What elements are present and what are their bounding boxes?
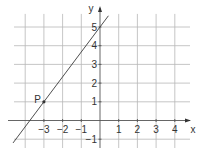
y-axis-label: y: [89, 3, 94, 14]
labels-layer: −3−2−11234−112345xyP: [34, 3, 195, 145]
x-tick-label: 2: [135, 124, 141, 135]
x-tick-label: 4: [172, 124, 178, 135]
point-marker: [42, 100, 45, 103]
point-label: P: [34, 94, 41, 105]
y-axis-arrow-icon: [98, 6, 102, 12]
x-tick-label: −3: [38, 124, 50, 135]
x-tick-label: 1: [116, 124, 122, 135]
y-tick-label: 1: [91, 96, 97, 107]
x-tick-label: 3: [153, 124, 159, 135]
y-tick-label: 5: [91, 22, 97, 33]
coordinate-plane: −3−2−11234−112345xyP: [0, 0, 200, 148]
x-axis-arrow-icon: [185, 119, 191, 123]
x-axis-label: x: [191, 124, 196, 135]
y-tick-label: −1: [86, 134, 98, 145]
y-tick-label: 4: [91, 40, 97, 51]
x-tick-label: −2: [57, 124, 69, 135]
y-tick-label: 3: [91, 59, 97, 70]
y-tick-label: 2: [91, 78, 97, 89]
